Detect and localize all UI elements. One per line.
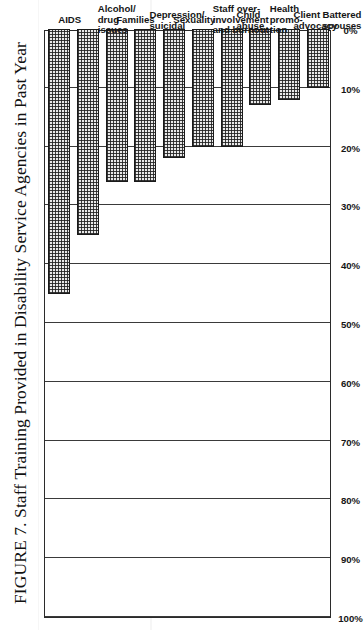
scan-artifact bbox=[38, 0, 39, 630]
value-tick-label: 30% bbox=[331, 201, 364, 212]
gridline-60 bbox=[45, 381, 330, 382]
value-tick-label: 100% bbox=[331, 613, 364, 624]
bar bbox=[106, 29, 128, 182]
value-tick-label: 20% bbox=[331, 142, 364, 153]
gridline-40 bbox=[45, 263, 330, 264]
value-tick-label: 50% bbox=[331, 319, 364, 330]
figure-title: FIGURE 7. Staff Training Provided in Dis… bbox=[10, 24, 31, 604]
gridline-80 bbox=[45, 498, 330, 499]
gridline-90 bbox=[45, 557, 330, 558]
gridline-70 bbox=[45, 440, 330, 441]
gridline-50 bbox=[45, 322, 330, 323]
plot-area bbox=[44, 30, 331, 618]
bar bbox=[278, 29, 300, 100]
bar bbox=[48, 29, 70, 294]
bar bbox=[163, 29, 185, 158]
bar bbox=[249, 29, 271, 105]
value-tick-label: 10% bbox=[331, 83, 364, 94]
category-label: Battered spouses bbox=[322, 10, 364, 31]
value-tick-label: 60% bbox=[331, 377, 364, 388]
bar bbox=[192, 29, 214, 147]
bar bbox=[134, 29, 156, 182]
value-tick-label: 40% bbox=[331, 260, 364, 271]
figure-canvas: FIGURE 7. Staff Training Provided in Dis… bbox=[0, 0, 364, 630]
gridline-100 bbox=[45, 616, 330, 617]
value-tick-label: 70% bbox=[331, 436, 364, 447]
value-tick-label: 90% bbox=[331, 554, 364, 565]
value-tick-label: 80% bbox=[331, 495, 364, 506]
bar bbox=[77, 29, 99, 235]
bar bbox=[307, 29, 329, 88]
bar bbox=[221, 29, 243, 147]
